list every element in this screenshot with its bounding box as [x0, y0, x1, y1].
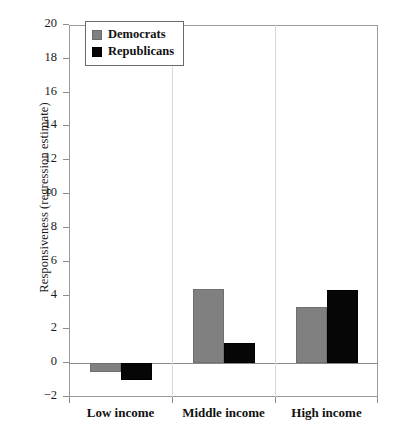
bar-republicans-low-income — [121, 363, 152, 380]
gray-square-icon — [92, 30, 102, 40]
category-separator — [275, 25, 276, 397]
y-tick-mark — [63, 125, 69, 126]
x-label-high-income: High income — [257, 405, 397, 421]
y-tick-mark — [63, 295, 69, 296]
y-tick-label: 10 — [0, 185, 57, 200]
bar-democrats-low-income — [90, 363, 121, 371]
y-tick-mark — [63, 193, 69, 194]
y-tick-label: 14 — [0, 117, 57, 132]
bar-democrats-middle-income — [193, 289, 224, 363]
y-tick-mark — [63, 328, 69, 329]
y-tick-label: 2 — [0, 320, 57, 335]
y-tick-label: 16 — [0, 84, 57, 99]
bar-democrats-high-income — [296, 307, 327, 363]
bar-republicans-high-income — [327, 290, 358, 363]
y-tick-mark — [63, 159, 69, 160]
x-tick-mark — [377, 397, 378, 403]
x-tick-mark — [275, 397, 276, 403]
chart-legend: Democrats Republicans — [85, 21, 184, 66]
y-tick-label: 0 — [0, 354, 57, 369]
legend-item-democrats: Democrats — [92, 26, 174, 43]
legend-label-democrats: Democrats — [108, 27, 166, 42]
x-tick-mark — [172, 397, 173, 403]
y-tick-mark — [63, 58, 69, 59]
y-tick-mark — [63, 227, 69, 228]
black-square-icon — [92, 47, 102, 57]
legend-label-republicans: Republicans — [108, 44, 174, 59]
bar-chart-figure: Responsiveness (regression estimate) 201… — [0, 0, 398, 439]
y-tick-label: 4 — [0, 287, 57, 302]
y-tick-label: 18 — [0, 50, 57, 65]
y-tick-label: 8 — [0, 219, 57, 234]
y-tick-label: 6 — [0, 253, 57, 268]
x-tick-mark — [69, 397, 70, 403]
category-separator — [172, 25, 173, 397]
legend-item-republicans: Republicans — [92, 43, 174, 60]
y-tick-label: −2 — [0, 388, 57, 403]
y-tick-label: 20 — [0, 16, 57, 31]
y-tick-mark — [63, 261, 69, 262]
y-tick-label: 12 — [0, 151, 57, 166]
y-tick-mark — [63, 24, 69, 25]
y-tick-mark — [63, 92, 69, 93]
bar-republicans-middle-income — [224, 343, 255, 363]
